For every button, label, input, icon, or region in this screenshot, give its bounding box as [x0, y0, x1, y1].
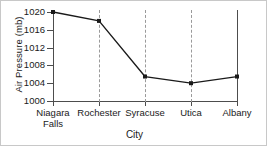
data-point-marker	[235, 75, 239, 79]
data-point-markers	[51, 10, 239, 85]
data-point-marker	[97, 19, 101, 23]
air-pressure-line-chart: Air Pressure (mb) 1000100410081012101610…	[0, 0, 267, 146]
data-series-layer	[1, 1, 267, 146]
data-point-marker	[143, 75, 147, 79]
data-point-marker	[51, 10, 55, 14]
data-line	[53, 12, 237, 83]
x-axis-title: City	[1, 129, 267, 140]
data-point-marker	[189, 81, 193, 85]
